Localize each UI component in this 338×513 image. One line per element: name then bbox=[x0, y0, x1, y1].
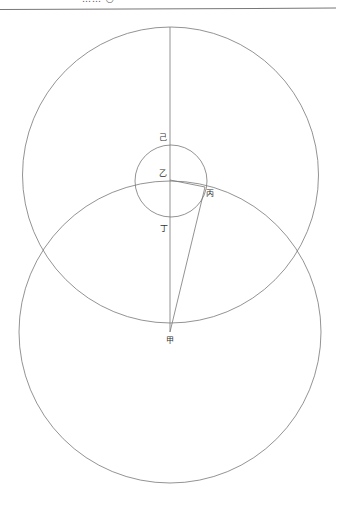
line-yi-bing bbox=[170, 180, 205, 187]
geometry-diagram: 己 乙 丙 丁 甲 bbox=[0, 0, 338, 513]
label-ding: 丁 bbox=[160, 224, 168, 233]
label-bing: 丙 bbox=[206, 189, 214, 198]
label-ji: 己 bbox=[159, 133, 167, 142]
line-bing-jia bbox=[170, 187, 205, 332]
label-jia: 甲 bbox=[166, 336, 174, 345]
label-yi: 乙 bbox=[159, 169, 167, 178]
upper-circle bbox=[23, 27, 319, 323]
